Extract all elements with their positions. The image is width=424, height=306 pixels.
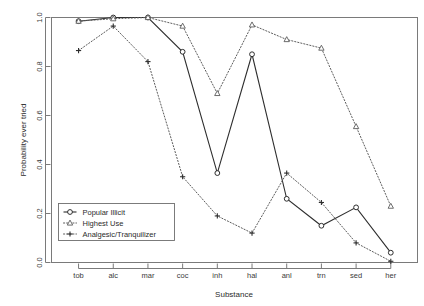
y-tick-label: 0.2 (35, 208, 44, 218)
x-tick-label-tob: tob (73, 271, 83, 280)
legend-label: Analgesic/Tranquilizer (83, 230, 157, 239)
y-tick-label: 0.6 (35, 110, 44, 120)
chart-legend: Popular IllicitHighest UseAnalgesic/Tran… (59, 204, 175, 241)
legend-label: Highest Use (83, 219, 124, 228)
y-tick-label: 1.0 (35, 12, 44, 22)
y-axis-title: Probability ever tried (19, 104, 28, 177)
data-point-circle (180, 49, 185, 54)
chart-panel: 0.00.20.40.60.81.0 tobalcmarcocinhhalanl… (0, 0, 424, 306)
x-tick-label-mar: mar (141, 271, 154, 280)
x-axis-title: Substance (215, 290, 253, 299)
data-point-circle (354, 205, 359, 210)
y-tick-label: 0.0 (35, 257, 44, 267)
data-point-circle (319, 223, 324, 228)
data-point-circle (250, 52, 255, 57)
x-tick-label-inh: inh (212, 271, 222, 280)
legend-label: Popular Illicit (83, 208, 126, 217)
data-point-circle (68, 210, 73, 215)
x-tick-label-trn: trn (317, 271, 326, 280)
x-tick-label-coc: coc (177, 271, 189, 280)
data-point-circle (388, 250, 393, 255)
data-point-circle (284, 196, 289, 201)
x-tick-label-anl: anl (282, 271, 292, 280)
x-tick-label-alc: alc (108, 271, 118, 280)
probability-ever-tried-line-chart: 0.00.20.40.60.81.0 tobalcmarcocinhhalanl… (0, 0, 424, 306)
y-tick-label: 0.4 (35, 159, 44, 169)
x-tick-label-sed: sed (350, 271, 362, 280)
y-tick-label: 0.8 (35, 61, 44, 71)
x-tick-label-hal: hal (247, 271, 257, 280)
x-tick-label-her: her (385, 271, 396, 280)
data-point-circle (215, 171, 220, 176)
